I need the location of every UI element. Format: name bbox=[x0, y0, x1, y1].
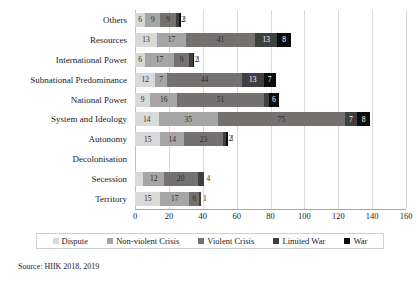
category-label-territory: Territory bbox=[95, 192, 127, 206]
x-tick-label: 140 bbox=[366, 211, 379, 221]
x-tick-label: 20 bbox=[165, 211, 174, 221]
x-tick-label: 100 bbox=[298, 211, 311, 221]
bar-segment-limited-war: 13 bbox=[242, 73, 264, 87]
legend-item-limited-war[interactable]: Limited War bbox=[273, 237, 325, 246]
bar-row: 617921 bbox=[135, 53, 194, 67]
category-label-secession: Secession bbox=[92, 172, 128, 186]
bar-segment-violent-crisis: 9 bbox=[174, 53, 189, 67]
bar-value-label: 6 bbox=[272, 96, 276, 104]
bar-value-label: 13 bbox=[262, 36, 270, 44]
legend-swatch-icon bbox=[107, 238, 113, 244]
category-label-resources: Resources bbox=[90, 33, 127, 47]
bar-segment-war: 6 bbox=[269, 93, 279, 107]
bar-segment-non-violent-crisis: 9 bbox=[145, 13, 160, 27]
x-tick-label: 80 bbox=[266, 211, 275, 221]
bar-value-label: 17 bbox=[171, 195, 179, 203]
bar-row: 69921 bbox=[135, 13, 181, 27]
bar-value-label: 6 bbox=[138, 16, 142, 24]
bar-segment-dispute: 15 bbox=[135, 132, 160, 146]
x-tick-label: 120 bbox=[332, 211, 345, 221]
legend-label: Violent Crisis bbox=[207, 237, 254, 246]
category-label-subnational-predominance: Subnational Predominance bbox=[30, 73, 127, 87]
bar-value-label-outside: 4 bbox=[206, 175, 210, 183]
bar-value-label: 41 bbox=[217, 36, 225, 44]
bar-segment-non-violent-crisis: 14 bbox=[160, 132, 184, 146]
bar-value-label: 15 bbox=[144, 136, 152, 144]
category-label-others: Others bbox=[103, 13, 127, 27]
bar-value-label-outside: 1 bbox=[230, 136, 234, 144]
bar-row: 151761 bbox=[135, 192, 201, 206]
category-label-international-power: International Power bbox=[56, 53, 127, 67]
legend-item-dispute[interactable]: Dispute bbox=[53, 237, 88, 246]
plot-area: 6992113174113861792112744137916513614357… bbox=[135, 10, 406, 209]
bar-segment-violent-crisis: 51 bbox=[177, 93, 263, 107]
bar-rows: 6992113174113861792112744137916513614357… bbox=[135, 10, 406, 209]
bar-value-label-outside: 1 bbox=[183, 16, 187, 24]
bar-segment-war: 1 bbox=[226, 132, 228, 146]
bar-segment-non-violent-crisis: 17 bbox=[145, 53, 174, 67]
bar-row: 15142321 bbox=[135, 132, 228, 146]
bar-value-label: 15 bbox=[144, 195, 152, 203]
bar-segment-non-violent-crisis: 16 bbox=[150, 93, 177, 107]
bar-segment-violent-crisis: 44 bbox=[167, 73, 242, 87]
bar-segment-dispute: 12 bbox=[135, 73, 155, 87]
legend-item-war[interactable]: War bbox=[344, 237, 367, 246]
bar-value-label: 23 bbox=[200, 136, 208, 144]
bar-value-label: 14 bbox=[169, 136, 177, 144]
x-tick-label: 60 bbox=[232, 211, 241, 221]
bar-value-label: 6 bbox=[138, 56, 142, 64]
bar-segment-non-violent-crisis: 17 bbox=[160, 192, 189, 206]
y-axis-category-labels: OthersResourcesInternational PowerSubnat… bbox=[0, 10, 131, 209]
legend-label: Limited War bbox=[282, 237, 325, 246]
legend-swatch-icon bbox=[53, 238, 59, 244]
bar-segment-dispute: 15 bbox=[135, 192, 160, 206]
bar-segment-war: 8 bbox=[277, 33, 291, 47]
bar-value-label: 12 bbox=[150, 175, 158, 183]
bar-segment-dispute: 6 bbox=[135, 13, 145, 27]
bar-value-label: 6 bbox=[192, 195, 196, 203]
bar-value-label: 8 bbox=[282, 36, 286, 44]
legend-swatch-icon bbox=[273, 238, 279, 244]
bar-value-label: 9 bbox=[166, 16, 170, 24]
bar-row: 512204 bbox=[135, 172, 204, 186]
bar-value-label: 7 bbox=[159, 76, 163, 84]
bar-segment-violent-crisis: 75 bbox=[218, 112, 345, 126]
bar-row: 131741138 bbox=[135, 33, 291, 47]
bar-segment-violent-crisis: 23 bbox=[184, 132, 223, 146]
bar-row: 14357578 bbox=[135, 112, 370, 126]
bar-value-label: 16 bbox=[160, 96, 168, 104]
legend-label: Dispute bbox=[62, 237, 88, 246]
bar-row: 12744137 bbox=[135, 73, 276, 87]
legend-item-violent-crisis[interactable]: Violent Crisis bbox=[198, 237, 254, 246]
bar-segment-war: 8 bbox=[357, 112, 371, 126]
x-tick-label: 40 bbox=[199, 211, 208, 221]
bar-value-label: 12 bbox=[141, 76, 149, 84]
category-label-national-power: National Power bbox=[71, 93, 127, 107]
category-label-autonomy: Autonomy bbox=[88, 132, 127, 146]
bar-value-label: 20 bbox=[177, 175, 185, 183]
legend-label: War bbox=[353, 237, 367, 246]
x-tick-label: 160 bbox=[400, 211, 413, 221]
bar-value-label-outside: 1 bbox=[203, 195, 207, 203]
bar-segment-non-violent-crisis: 17 bbox=[157, 33, 186, 47]
bar-value-label: 8 bbox=[362, 116, 366, 124]
x-axis-line bbox=[135, 209, 406, 210]
bar-segment-violent-crisis: 41 bbox=[186, 33, 255, 47]
bar-segment-violent-crisis: 20 bbox=[164, 172, 198, 186]
bar-value-label: 9 bbox=[141, 96, 145, 104]
bar-segment-war: 7 bbox=[264, 73, 276, 87]
bar-value-label: 9 bbox=[180, 56, 184, 64]
bar-segment-limited-war: 4 bbox=[198, 172, 205, 186]
bar-value-label: 44 bbox=[201, 76, 209, 84]
bar-value-label: 17 bbox=[156, 56, 164, 64]
conflict-intensity-stacked-bar-chart: OthersResourcesInternational PowerSubnat… bbox=[0, 0, 420, 282]
bar-value-label: 35 bbox=[185, 116, 193, 124]
category-label-system-and-ideology: System and Ideology bbox=[51, 112, 127, 126]
bar-segment-dispute: 14 bbox=[135, 112, 159, 126]
bar-segment-non-violent-crisis: 35 bbox=[159, 112, 218, 126]
category-label-decolonisation: Decolonisation bbox=[73, 152, 128, 166]
bar-segment-limited-war: 7 bbox=[345, 112, 357, 126]
bar-segment-dispute: 5 bbox=[135, 172, 143, 186]
bar-segment-dispute: 13 bbox=[135, 33, 157, 47]
legend-item-non-violent-crisis[interactable]: Non-violent Crisis bbox=[107, 237, 179, 246]
